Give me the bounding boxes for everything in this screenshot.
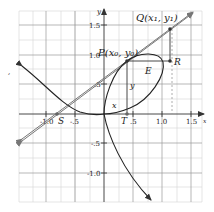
label-E: E: [144, 66, 152, 76]
label-S: S: [58, 116, 64, 126]
label-Q: Q(x₁, y₁): [136, 12, 178, 23]
point-Q: [168, 27, 172, 31]
y-axis-label: y: [96, 8, 102, 16]
side-mark: ,: [8, 68, 10, 76]
x-tick-neg05: -.5: [70, 118, 79, 126]
tangent-line: [22, 13, 193, 141]
x-tick-15: 1.5: [186, 118, 197, 126]
label-T: T: [121, 116, 128, 126]
point-R: [168, 59, 172, 63]
x-tick-1: 1.0: [156, 118, 167, 126]
y-tick-neg05: -.5: [91, 140, 100, 148]
x-tick-05: .5: [130, 118, 137, 126]
tangent-line: [22, 12, 193, 139]
y-tick-15: 1.5: [89, 22, 100, 30]
curve-left-branch: [22, 66, 104, 115]
y-tick-neg1: -1.0: [87, 170, 101, 178]
folium-figure: -1.0 -.5 .5 1.0 1.5 1.5 1.0 .5 -.5 -1.0 …: [0, 0, 214, 212]
grid-major: [19, 11, 202, 202]
label-x-segment: x: [112, 101, 117, 110]
point-P: [125, 59, 129, 63]
grid: [19, 11, 202, 202]
label-y-segment: y: [129, 81, 135, 90]
label-R: R: [173, 57, 181, 67]
label-P: P(x₀, y₀): [97, 47, 138, 58]
x-axis-label: x: [203, 117, 207, 124]
